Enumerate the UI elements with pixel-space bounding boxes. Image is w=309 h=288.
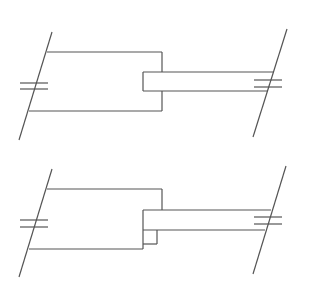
upper-housing-block	[29, 52, 162, 111]
upper-right-break-marks	[254, 80, 282, 87]
lower-spacer-block	[143, 230, 157, 244]
diagram-canvas	[0, 0, 309, 288]
upper-left-break-marks	[20, 83, 48, 89]
lower-housing-block	[29, 189, 162, 249]
lower-right-wall	[253, 166, 286, 274]
lower-diagram	[19, 166, 286, 277]
upper-left-wall	[19, 32, 52, 140]
lower-rod	[143, 210, 271, 230]
lower-left-wall	[19, 169, 52, 277]
upper-rod	[143, 72, 274, 91]
upper-right-wall	[253, 29, 287, 137]
upper-diagram	[19, 29, 287, 140]
